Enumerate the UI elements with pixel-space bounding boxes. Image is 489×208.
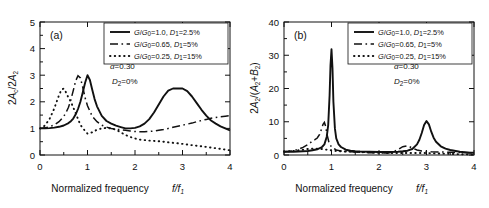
- svg-text:0: 0: [30, 150, 35, 161]
- legend-b-entry-2: G/G0=0.25, D1=15%: [378, 52, 446, 62]
- svg-text:1: 1: [329, 161, 334, 172]
- panel-a-label: (a): [50, 29, 63, 41]
- panel-b-x-ticklabels: 0 1 2 3 4: [281, 161, 476, 172]
- panel-a-ylabel: 2Ac/2A2: [7, 71, 19, 105]
- legend-a-entry-2: G/G0=0.25, D1=15%: [134, 52, 202, 62]
- legend-b-entry-1: G/G0=0.65, D1=5%: [378, 40, 442, 50]
- panel-b-legend: G/G0=1.0, D1=2.5% G/G0=0.65, D1=5% G/G0=…: [348, 23, 472, 64]
- svg-text:f/f1: f/f1: [416, 183, 428, 195]
- svg-text:10: 10: [268, 116, 279, 127]
- legend-b-entry-0: G/G0=1.0, D1=2.5%: [378, 28, 444, 38]
- panel-b-xlabel: Normalized frequency f/f1: [295, 183, 428, 195]
- panel-a: 0 1 2 3 4 5 0 1 2 3 4 (a) 2Ac/2A2: [0, 0, 244, 208]
- svg-text:1: 1: [85, 161, 90, 172]
- svg-text:0: 0: [274, 150, 279, 161]
- svg-text:D2=0%: D2=0%: [394, 77, 420, 87]
- svg-text:Normalized frequency: Normalized frequency: [51, 183, 148, 194]
- svg-text:4: 4: [30, 43, 35, 54]
- svg-text:3: 3: [180, 161, 185, 172]
- panel-b: 0 10 20 30 40 0 1 2 3 4 (b) 2A2/(A2+B2) …: [244, 0, 488, 208]
- svg-text:2A2/(A2+B2): 2A2/(A2+B2): [249, 62, 261, 113]
- svg-text:1: 1: [30, 123, 35, 134]
- legend-a-entry-1: G/G0=0.65, D1=5%: [134, 40, 198, 50]
- svg-text:4: 4: [471, 161, 476, 172]
- panel-b-ylabel: 2A2/(A2+B2): [249, 62, 261, 113]
- panel-a-svg: 0 1 2 3 4 5 0 1 2 3 4 (a) 2Ac/2A2: [0, 0, 244, 208]
- panel-a-y-ticklabels: 0 1 2 3 4 5: [30, 17, 35, 161]
- svg-text:2Ac/2A2: 2Ac/2A2: [7, 71, 19, 105]
- svg-text:2: 2: [132, 161, 137, 172]
- figure-container: 0 1 2 3 4 5 0 1 2 3 4 (a) 2Ac/2A2: [0, 0, 489, 208]
- svg-text:4: 4: [227, 161, 232, 172]
- panel-a-xlabel: Normalized frequency f/f1: [51, 183, 184, 195]
- svg-text:0: 0: [281, 161, 286, 172]
- svg-text:2: 2: [30, 96, 35, 107]
- svg-text:0: 0: [37, 161, 42, 172]
- svg-text:2: 2: [376, 161, 381, 172]
- panel-a-legend: G/G0=1.0, D1=2.5% G/G0=0.65, D1=5% G/G0=…: [104, 23, 228, 64]
- svg-text:D2=0%: D2=0%: [112, 77, 138, 87]
- panel-b-label: (b): [294, 29, 307, 41]
- svg-text:40: 40: [268, 17, 279, 28]
- legend-a-entry-0: G/G0=1.0, D1=2.5%: [134, 28, 200, 38]
- svg-text:5: 5: [30, 17, 35, 28]
- panel-b-svg: 0 10 20 30 40 0 1 2 3 4 (b) 2A2/(A2+B2) …: [244, 0, 488, 208]
- svg-text:30: 30: [268, 50, 279, 61]
- panel-a-x-ticklabels: 0 1 2 3 4: [37, 161, 232, 172]
- panel-b-y-ticklabels: 0 10 20 30 40: [268, 17, 279, 161]
- svg-text:Normalized frequency: Normalized frequency: [295, 183, 392, 194]
- svg-text:20: 20: [268, 83, 279, 94]
- svg-text:3: 3: [424, 161, 429, 172]
- svg-text:3: 3: [30, 70, 35, 81]
- svg-text:f/f1: f/f1: [172, 183, 184, 195]
